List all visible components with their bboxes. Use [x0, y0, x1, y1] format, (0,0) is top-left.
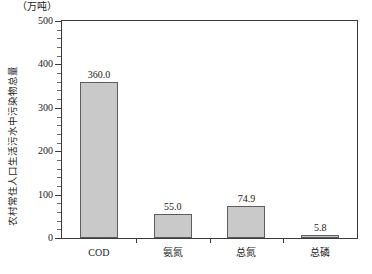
bar-value-label: 55.0 — [164, 201, 182, 212]
bar[interactable] — [301, 235, 339, 238]
y-tick-label-text: 300 — [13, 103, 53, 113]
y-tick-label: 0 — [10, 233, 53, 243]
y-tick-label: 200 — [10, 146, 53, 156]
unit-caption: （万吨） — [17, 1, 57, 13]
y-tick-label: 300 — [10, 103, 53, 113]
bar-slot: 74.9 — [210, 21, 284, 238]
bar-slot: 5.8 — [283, 21, 357, 238]
y-tick-label-text: 100 — [13, 190, 53, 200]
bar[interactable] — [154, 214, 192, 238]
y-tick-label: 500 — [10, 16, 53, 26]
x-tick — [283, 239, 284, 243]
bar-slot: 55.0 — [136, 21, 210, 238]
bar-value-label: 74.9 — [238, 193, 256, 204]
x-tick — [210, 239, 211, 243]
x-axis-label-2: 氨氮 — [136, 247, 210, 259]
y-tick-label: 400 — [10, 59, 53, 69]
y-tick-label-text: 400 — [13, 59, 53, 69]
x-axis-label-3: 总氮 — [210, 247, 284, 259]
x-axis-label-1: COD — [62, 247, 136, 259]
y-tick-label-text: 500 — [13, 16, 53, 26]
x-axis-label-4: 总磷 — [283, 247, 357, 259]
x-tick — [136, 239, 137, 243]
bar[interactable] — [227, 206, 265, 239]
y-tick-label: 100 — [10, 190, 53, 200]
bar-value-label: 360.0 — [88, 69, 111, 80]
bar-value-label: 5.8 — [314, 222, 327, 233]
bars-layer: 360.055.074.95.8 — [62, 21, 357, 238]
bar[interactable] — [80, 82, 118, 238]
bar-slot: 360.0 — [62, 21, 136, 238]
y-tick-label-text: 0 — [13, 233, 53, 243]
y-tick-label-text: 200 — [13, 146, 53, 156]
x-axis-labels: COD氨氮总氮总磷 — [62, 247, 357, 263]
bar-chart-figure: （万吨） 农村常住人口生活污水中污染物总量 0100200300400500 3… — [0, 0, 372, 274]
